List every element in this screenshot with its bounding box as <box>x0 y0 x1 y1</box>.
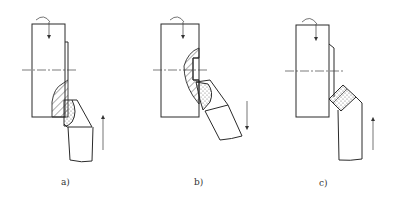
rotation-arrow-icon <box>170 17 184 22</box>
rotation-arrow-icon <box>302 18 317 24</box>
rotation-arrow-icon <box>36 17 50 22</box>
tool-shank <box>205 105 242 140</box>
cutting-insert <box>64 100 75 126</box>
figure-b: b) <box>153 17 247 187</box>
turning-diagram: a) b) c) <box>0 0 395 200</box>
figure-a: a) <box>22 17 103 187</box>
cutting-insert <box>329 85 356 111</box>
tool-shank <box>68 127 93 162</box>
chip-section <box>184 48 199 104</box>
figure-label-c: c) <box>319 178 328 188</box>
figure-label-a: a) <box>61 177 70 187</box>
figure-c: c) <box>285 18 373 188</box>
machined-step <box>329 44 334 97</box>
machined-notch <box>193 58 199 80</box>
figure-label-b: b) <box>194 177 203 187</box>
